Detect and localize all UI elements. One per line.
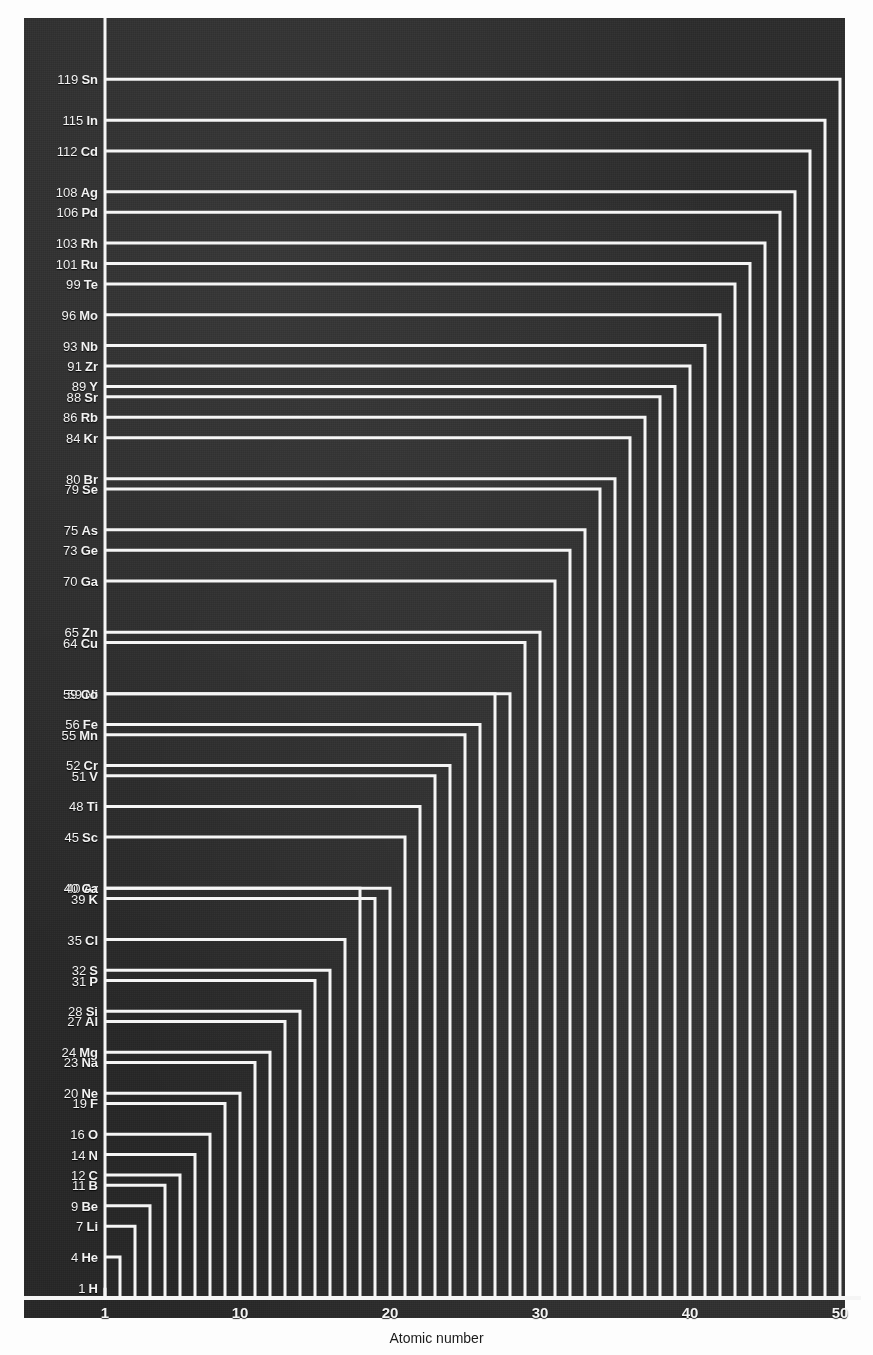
x-axis-tick-50: 50 [832,1304,849,1321]
chart-plot-panel: 1H4He7Li9Be11B12C14N16O19F20Ne23Na24Mg27… [24,18,845,1318]
atomic-mass-chart-figure: 1H4He7Li9Be11B12C14N16O19F20Ne23Na24Mg27… [0,0,873,1355]
x-axis-tick-label-row: 11020304050 [24,18,845,1318]
x-axis-tick-1: 1 [101,1304,109,1321]
x-axis-tick-30: 30 [532,1304,549,1321]
x-axis-caption: Atomic number [0,1330,873,1346]
x-axis-tick-10: 10 [232,1304,249,1321]
x-axis-tick-40: 40 [682,1304,699,1321]
x-axis-tick-20: 20 [382,1304,399,1321]
